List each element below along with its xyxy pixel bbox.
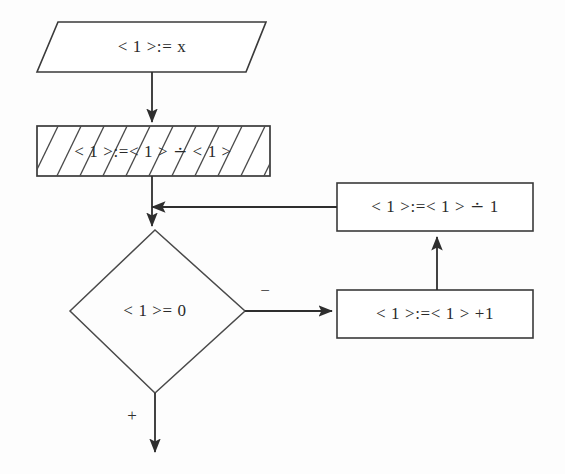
- decrement-label: < 1 >:=< 1 > ∸ 1: [371, 197, 499, 216]
- node-hatched-process[interactable]: < 1 >:=< 1 > ∸ < 1 >: [31, 120, 291, 182]
- node-decision[interactable]: < 1 >= 0: [70, 230, 245, 393]
- input-label: < 1 >:= x: [118, 37, 187, 56]
- node-increment[interactable]: < 1 >:=< 1 > +1: [337, 290, 533, 338]
- hatched-process-label: < 1 >:=< 1 > ∸ < 1 >: [74, 142, 232, 161]
- flowchart-page: < 1 >:= x < 1 >:=< 1 > ∸ < 1 >: [0, 0, 565, 474]
- edge-label-plus: +: [127, 406, 137, 425]
- decision-label: < 1 >= 0: [123, 301, 186, 320]
- edge-label-minus: −: [260, 281, 270, 300]
- node-decrement[interactable]: < 1 >:=< 1 > ∸ 1: [337, 183, 533, 231]
- node-input[interactable]: < 1 >:= x: [37, 22, 266, 72]
- increment-label: < 1 >:=< 1 > +1: [376, 304, 494, 323]
- flowchart-canvas: < 1 >:= x < 1 >:=< 1 > ∸ < 1 >: [0, 0, 565, 474]
